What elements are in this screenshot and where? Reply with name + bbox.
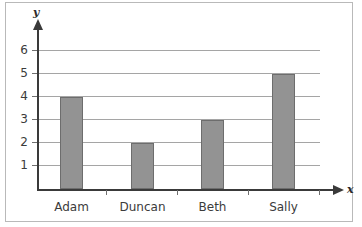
x-axis-arrow-icon <box>333 185 344 195</box>
x-tick-mark-4 <box>319 190 320 195</box>
x-tick-mark-1 <box>106 190 107 195</box>
y-tick-label-2: 2 <box>14 136 28 148</box>
bar-duncan <box>131 143 154 189</box>
y-tick-label-3: 3 <box>14 113 28 125</box>
y-tick-mark-2 <box>32 142 37 143</box>
y-tick-mark-5 <box>32 73 37 74</box>
y-tick-label-1: 1 <box>14 159 28 171</box>
y-tick-mark-3 <box>32 119 37 120</box>
bar-adam <box>60 97 83 189</box>
x-tick-mark-3 <box>248 190 249 195</box>
bar-beth <box>201 120 224 189</box>
x-category-label-sally: Sally <box>253 201 314 213</box>
y-tick-mark-4 <box>32 96 37 97</box>
x-tick-mark-2 <box>177 190 178 195</box>
y-tick-label-6: 6 <box>14 44 28 56</box>
gridline-6 <box>37 50 320 51</box>
x-category-label-beth: Beth <box>182 201 243 213</box>
plot-area: 6 5 4 3 2 1 y x Adam Duncan Beth Sally <box>0 0 362 227</box>
x-axis-line <box>37 189 335 191</box>
x-category-label-duncan: Duncan <box>112 201 173 213</box>
y-tick-label-4: 4 <box>14 90 28 102</box>
x-axis-label: x <box>347 184 354 195</box>
y-axis-label: y <box>33 7 39 18</box>
y-tick-mark-6 <box>32 50 37 51</box>
y-axis-line <box>37 28 39 190</box>
bar-sally <box>272 74 295 189</box>
y-tick-mark-1 <box>32 165 37 166</box>
y-axis-arrow-icon <box>33 19 43 30</box>
y-tick-label-5: 5 <box>14 67 28 79</box>
x-category-label-adam: Adam <box>41 201 102 213</box>
bar-chart-figure: 6 5 4 3 2 1 y x Adam Duncan Beth Sally <box>0 0 362 227</box>
